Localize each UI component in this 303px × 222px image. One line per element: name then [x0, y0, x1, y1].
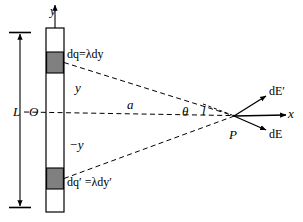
label-distance-a: a [127, 98, 134, 111]
label-distance-l: l [202, 104, 206, 117]
label-rod-length-L: L [13, 105, 20, 118]
label-y-positive: y [75, 81, 81, 94]
label-field-dE: dE [269, 128, 282, 140]
label-angle-theta: θ [182, 105, 188, 118]
charge-element-dq [47, 52, 64, 73]
ray-from-dq [64, 63, 233, 116]
label-charge-element-dq-prime: dq′ =λdy′ [67, 176, 112, 188]
diagram-canvas [0, 0, 303, 222]
field-vectors [234, 96, 286, 130]
charged-rod [46, 28, 64, 212]
vector-x-axis [234, 115, 286, 116]
label-x-axis: x [288, 107, 294, 120]
label-point-P: P [229, 128, 237, 141]
vector-dE-prime [234, 96, 266, 116]
theta-reference-line [203, 104, 232, 115]
ray-from-dq-prime [64, 117, 233, 179]
rod-length-dimension [9, 33, 31, 208]
label-charge-element-dq: dq=λdy [67, 48, 104, 60]
physics-diagram: y L O dq=λdy dq′ =λdy′ y −y a θ l P dE′ … [0, 0, 303, 222]
label-origin-O: O [29, 105, 38, 118]
label-field-dE-prime: dE′ [269, 85, 285, 97]
vector-dE [234, 116, 266, 130]
label-y-negative: −y [69, 138, 84, 151]
charge-element-dq-prime [47, 168, 64, 189]
label-y-axis: y [50, 4, 56, 17]
point-P-marker [233, 115, 235, 117]
